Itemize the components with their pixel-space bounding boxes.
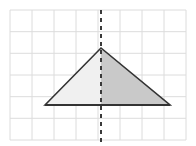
- figure-canvas: [0, 0, 196, 146]
- geometry-diagram: [0, 0, 196, 146]
